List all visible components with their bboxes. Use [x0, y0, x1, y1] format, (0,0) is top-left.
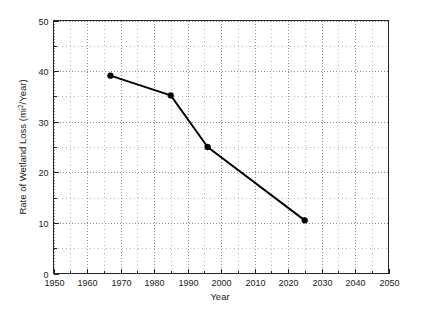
chart-background	[0, 0, 422, 316]
wetland-loss-line-chart: 1950196019701980199020002010202020302040…	[0, 0, 422, 316]
y-axis-title-prefix: Rate of Wetland Loss (mi	[17, 108, 28, 214]
y-axis-tick-label: 30	[38, 118, 48, 128]
x-axis-tick-label: 1980	[144, 278, 164, 288]
chart-figure: 1950196019701980199020002010202020302040…	[0, 0, 422, 316]
x-axis-tick-label: 1990	[178, 278, 198, 288]
y-axis-tick-label: 20	[38, 168, 48, 178]
y-axis-title-group: Rate of Wetland Loss (mi2/Year)	[17, 79, 28, 214]
y-axis-tick-label: 10	[38, 219, 48, 229]
x-axis-tick-label: 2010	[245, 278, 265, 288]
x-axis-tick-label: 2020	[278, 278, 298, 288]
y-axis-title-suffix: /Year)	[17, 79, 28, 104]
data-point-marker	[302, 217, 308, 223]
x-axis-tick-label: 2040	[345, 278, 365, 288]
y-axis-tick-label: 50	[38, 17, 48, 27]
x-axis-title: Year	[210, 291, 229, 302]
y-axis-tick-label: 40	[38, 67, 48, 77]
x-axis-tick-label: 2030	[312, 278, 332, 288]
x-axis-tick-label: 2050	[379, 278, 399, 288]
data-point-marker	[205, 144, 211, 150]
y-axis-title: Rate of Wetland Loss (mi2/Year)	[17, 79, 28, 214]
data-point-marker	[168, 92, 174, 98]
x-axis-tick-label: 1970	[111, 278, 131, 288]
x-axis-tick-label: 1960	[77, 278, 97, 288]
y-axis-tick-label: 0	[43, 270, 48, 280]
x-axis-tick-label: 2000	[211, 278, 231, 288]
data-point-marker	[108, 73, 114, 79]
